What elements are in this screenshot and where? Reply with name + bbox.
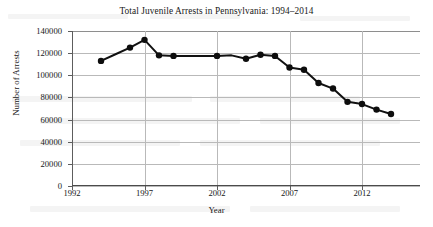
x-tick-label: 2007 (281, 188, 298, 198)
x-tick-label: 1997 (136, 188, 153, 198)
chart-figure: Total Juvenile Arrests in Pennsylvania: … (0, 0, 433, 227)
data-point-marker (272, 53, 278, 59)
data-point-marker (127, 44, 133, 50)
data-point-marker (301, 67, 307, 73)
data-point-marker (330, 85, 336, 91)
data-point-marker (315, 80, 321, 86)
x-axis-title: Year (0, 205, 433, 215)
x-tick-label: 2012 (353, 188, 370, 198)
plot-area (72, 31, 420, 186)
data-series-line (72, 31, 420, 186)
y-tick-mark (68, 186, 72, 187)
data-point-marker (359, 101, 365, 107)
y-tick-label: 140000 (36, 26, 62, 36)
data-point-marker (243, 55, 249, 61)
data-point-marker (373, 106, 379, 112)
y-tick-label: 80000 (41, 92, 62, 102)
data-point-marker (170, 53, 176, 59)
data-point-marker (286, 64, 292, 70)
y-tick-label: 120000 (36, 48, 62, 58)
x-axis-tick-labels: 19921997200220072012 (72, 188, 420, 202)
data-point-marker (344, 99, 350, 105)
y-tick-label: 40000 (41, 137, 62, 147)
x-tick-label: 2002 (208, 188, 225, 198)
data-point-marker (214, 53, 220, 59)
data-point-marker (98, 58, 104, 64)
y-tick-label: 100000 (36, 70, 62, 80)
y-tick-label: 0 (58, 181, 62, 191)
y-tick-label: 20000 (41, 159, 62, 169)
data-point-marker (141, 37, 147, 43)
data-point-marker (388, 111, 394, 117)
chart-title: Total Juvenile Arrests in Pennsylvania: … (0, 6, 433, 16)
y-tick-label: 60000 (41, 115, 62, 125)
y-axis-title: Number of Arrests (11, 23, 21, 143)
data-point-marker (257, 52, 263, 58)
gridline-y (72, 186, 420, 187)
x-tick-label: 1992 (63, 188, 80, 198)
data-point-marker (156, 52, 162, 58)
